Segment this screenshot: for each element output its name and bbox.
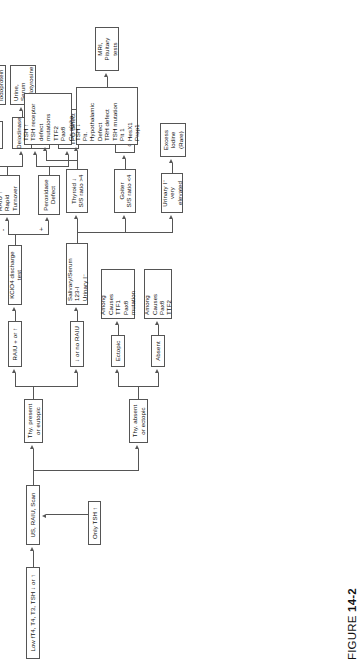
node-abnormal-serum-iodoprotein: Abnormal Serum Iodoprotein <box>0 65 6 105</box>
node-ectopic: Ectopic <box>111 335 125 367</box>
edge-line <box>158 325 159 335</box>
edge-line <box>172 219 173 233</box>
edge-arrow <box>5 217 9 221</box>
edge-arrow <box>12 369 16 373</box>
edge-line <box>46 160 77 161</box>
edge-arrow <box>169 159 173 163</box>
node-thyroid-ss-ratio-gt4: Thyroid ↓ S/S ratio >4 <box>66 169 88 213</box>
edge-line <box>77 219 78 233</box>
edge-line <box>172 163 173 173</box>
edge-arrow <box>122 215 126 219</box>
edge-line <box>33 551 34 567</box>
edge-line <box>77 161 78 169</box>
edge-line <box>77 311 78 321</box>
edge-line <box>48 221 49 235</box>
edge-line <box>138 387 139 399</box>
edge-line <box>118 325 119 335</box>
edge-line <box>77 233 78 243</box>
edge-arrow <box>74 147 78 151</box>
edge-arrow <box>45 217 49 221</box>
node-goiter-ss-ratio-lt4: Goiter S/S ratio <4 <box>114 169 136 213</box>
edge-arrow <box>169 215 173 219</box>
node-ectopic-causes: Among Causes TTF1 Pax8 mutation <box>101 269 135 319</box>
edge-line <box>33 449 34 471</box>
node-only-tsh-up: Only TSH ↑ <box>88 501 101 545</box>
edge-sign-negative: - <box>0 229 7 231</box>
node-peroxidase-defect: Peroxidase Defect <box>38 175 60 215</box>
edge-arrow <box>155 369 159 373</box>
edge-arrow <box>115 321 119 325</box>
node-mri-pituitary-tests: MRI, Pituitary tests <box>95 27 119 71</box>
node-us-raiu-scan: US, RAIU, Scan <box>26 485 40 545</box>
edge-line <box>0 166 22 167</box>
node-thy-present-eutopic: Thy. present or eutopic <box>24 399 43 443</box>
edge-arrow <box>122 155 126 159</box>
edge-line <box>118 386 158 387</box>
node-low-ft4: Low fT4, T4, T3, TSH ↓ or ↑ <box>26 567 40 659</box>
edge-line <box>22 155 23 167</box>
edge-line <box>68 155 69 167</box>
edge-line <box>46 514 88 515</box>
edge-arrow <box>33 151 37 155</box>
node-tsh-low-pituitary: TSH ↓ Pit. Hypothalamic Defect TRH defec… <box>76 87 138 145</box>
edge-arrow <box>74 215 78 219</box>
node-low-or-no-raiu: ↓ or no RAIU <box>70 321 84 367</box>
edge-line <box>8 234 48 235</box>
edge-arrow <box>30 445 34 449</box>
node-urinary-i-elevated: Urinary I⁻ very elevated <box>161 173 183 213</box>
edge-line <box>36 155 37 167</box>
node-tg-defect: TG defect <box>0 121 3 149</box>
edge-line <box>33 471 34 485</box>
edge-arrow <box>19 151 23 155</box>
edge-line <box>33 387 34 399</box>
node-excess-iodine: Excess Iodine (Rare) <box>160 123 186 157</box>
edge-line <box>36 166 68 167</box>
edge-line <box>125 159 126 169</box>
node-tsh-receptor-defect: TSH ↑ TSH receptor defect mutations TTF2… <box>24 93 72 145</box>
node-thy-absent-ectopic: Thy. absent or ectopic <box>129 399 148 443</box>
edge-arrow <box>12 307 16 311</box>
edge-line <box>46 151 47 161</box>
edge-arrow <box>42 514 46 518</box>
rotated-figure-wrapper: Low fT4, T4, T3, TSH ↓ or ↑ US, RAIU, Sc… <box>0 0 359 667</box>
node-raiu-positive: RAIU + or ↑ <box>8 321 22 367</box>
edge-sign-positive: + <box>39 227 46 231</box>
edge-arrow <box>115 369 119 373</box>
edge-line <box>8 221 9 235</box>
edge-line <box>15 235 16 245</box>
edge-line <box>33 470 138 471</box>
node-kclo4-discharge-test: KClO4 discharge test <box>8 245 22 305</box>
edge-line <box>49 167 50 175</box>
edge-line <box>107 77 108 87</box>
figure-caption-number: 14-2 <box>346 588 358 612</box>
edge-line <box>7 167 8 175</box>
edge-line <box>158 373 159 387</box>
edge-line <box>15 373 16 387</box>
figure-caption: FIGURE 14-2 <box>346 588 358 660</box>
edge-arrow <box>43 147 47 151</box>
edge-line <box>77 373 78 387</box>
figure-caption-lead: FIGURE <box>346 612 358 660</box>
edge-arrow <box>74 369 78 373</box>
edge-arrow <box>30 547 34 551</box>
edge-arrow <box>65 151 69 155</box>
edge-line <box>125 219 126 233</box>
flowchart-stage: Low fT4, T4, T3, TSH ↓ or ↑ US, RAIU, Sc… <box>0 0 359 667</box>
node-raiu-rapid-turnover: RAIU ↑ Rapid Turnover <box>0 175 20 215</box>
edge-line <box>15 311 16 321</box>
edge-line <box>77 151 78 161</box>
node-salivary-serum-123i: Salivary/Serum 123-I Urinary I⁻ <box>66 243 88 305</box>
edge-line <box>15 386 77 387</box>
edge-arrow <box>74 307 78 311</box>
node-absent-causes: Among Causes Pax8 TTF2 <box>144 269 172 319</box>
node-absent: Absent <box>151 335 165 367</box>
edge-line <box>138 449 139 471</box>
edge-arrow <box>155 321 159 325</box>
edge-line <box>118 373 119 387</box>
edge-arrow <box>135 445 139 449</box>
figure-page: Low fT4, T4, T3, TSH ↓ or ↑ US, RAIU, Sc… <box>0 0 359 667</box>
edge-arrow <box>104 73 108 77</box>
